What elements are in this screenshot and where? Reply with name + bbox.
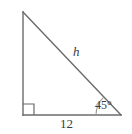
geometry-figure: h 45° 12 bbox=[0, 0, 132, 134]
angle-measure-label: 45° bbox=[95, 99, 112, 111]
hypotenuse-label: h bbox=[73, 45, 80, 58]
base-length-label: 12 bbox=[60, 117, 73, 130]
triangle-diagram-svg bbox=[0, 0, 132, 134]
right-angle-square-icon bbox=[23, 104, 34, 115]
